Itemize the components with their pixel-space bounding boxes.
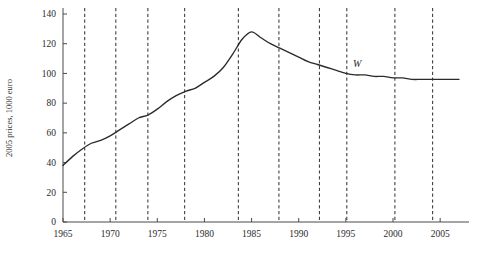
y-tick-label-0: 0 <box>51 217 56 227</box>
axes <box>63 8 469 222</box>
event-marker-lines <box>85 8 433 222</box>
data-series-group <box>63 32 459 166</box>
y-tick-label-2: 40 <box>47 158 57 168</box>
y-tick-label-7: 140 <box>42 9 57 19</box>
x-tick-label-8: 2005 <box>431 229 450 239</box>
series-label-w: W <box>353 58 363 69</box>
x-tick-label-7: 2000 <box>384 229 403 239</box>
x-tick-label-0: 1965 <box>54 229 73 239</box>
line-chart-canvas: 0204060801001201401965197019751980198519… <box>0 0 478 259</box>
x-axis-ticks: 196519701975198019851990199520002005 <box>54 218 450 239</box>
x-tick-label-5: 1990 <box>289 229 308 239</box>
y-tick-label-4: 80 <box>47 98 57 108</box>
chart-figure: 0204060801001201401965197019751980198519… <box>0 0 478 259</box>
y-axis-title: 2005 prices, 1000 euro <box>4 79 14 157</box>
x-tick-label-1: 1970 <box>101 229 120 239</box>
x-tick-label-2: 1975 <box>148 229 167 239</box>
y-tick-label-5: 100 <box>42 69 57 79</box>
y-tick-label-1: 20 <box>47 188 57 198</box>
y-tick-label-6: 120 <box>42 39 57 49</box>
data-line-W <box>63 32 459 166</box>
x-tick-label-3: 1980 <box>195 229 214 239</box>
x-tick-label-6: 1995 <box>336 229 355 239</box>
y-tick-label-3: 60 <box>47 128 57 138</box>
x-tick-label-4: 1985 <box>242 229 261 239</box>
